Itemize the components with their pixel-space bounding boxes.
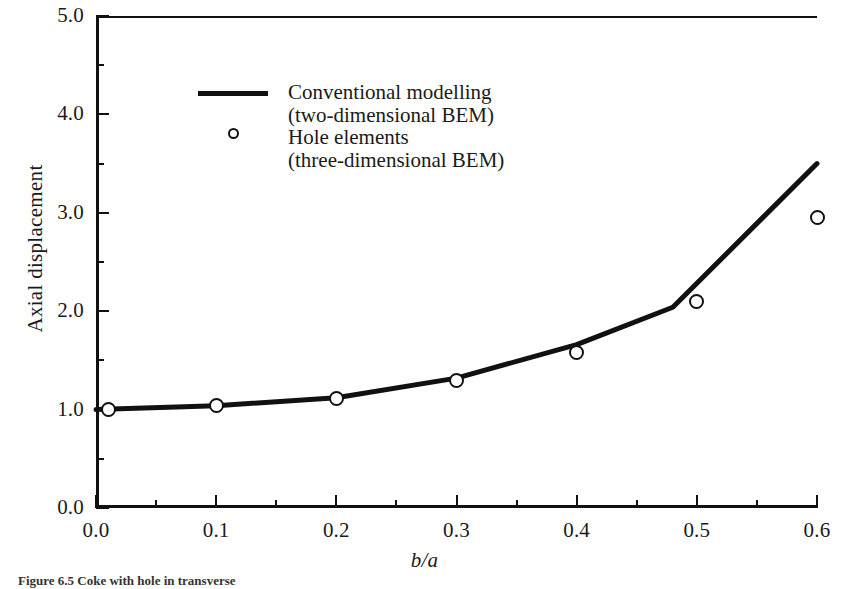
legend-label-conventional-modelling: Conventional modelling xyxy=(288,81,492,104)
x-axis-minor-tick xyxy=(636,500,638,508)
y-axis-tick-label: 1.0 xyxy=(24,399,84,420)
figure-caption: Figure 6.5 Coke with hole in transverse xyxy=(18,573,838,589)
y-axis-major-tick xyxy=(96,507,109,509)
y-axis-minor-tick xyxy=(96,163,104,165)
x-axis-minor-tick xyxy=(155,500,157,508)
x-axis-tick-label: 0.1 xyxy=(181,520,251,541)
x-axis-minor-tick xyxy=(395,500,397,508)
data-point-marker xyxy=(810,210,825,225)
x-axis-tick-label: 0.2 xyxy=(301,520,371,541)
data-point-marker xyxy=(209,398,224,413)
x-axis-major-tick xyxy=(456,495,458,508)
x-axis-tick-label: 0.6 xyxy=(782,520,849,541)
x-axis-tick-label: 0.3 xyxy=(422,520,492,541)
x-axis-tick-label: 0.4 xyxy=(542,520,612,541)
y-axis-minor-tick xyxy=(96,64,104,66)
figure-chart: 0.01.02.03.04.05.0 0.00.10.20.30.40.50.6… xyxy=(0,0,849,589)
x-axis-major-tick xyxy=(576,495,578,508)
y-axis-major-tick xyxy=(96,212,109,214)
solid-line-swatch-icon xyxy=(198,91,268,96)
x-axis-title: b/a xyxy=(0,548,849,573)
y-axis-minor-tick xyxy=(96,359,104,361)
legend-label-two-dimensional-bem: (two-dimensional BEM) xyxy=(288,104,494,127)
data-point-marker xyxy=(101,402,116,417)
y-axis-minor-tick xyxy=(96,458,104,460)
x-axis-major-tick xyxy=(816,495,818,508)
y-axis-title: Axial displacement xyxy=(23,119,48,379)
x-axis-tick-label: 0.5 xyxy=(662,520,732,541)
x-axis-major-tick xyxy=(696,495,698,508)
y-axis-major-tick xyxy=(96,310,109,312)
y-axis-major-tick xyxy=(96,113,109,115)
data-point-marker xyxy=(329,391,344,406)
open-circle-swatch-icon xyxy=(228,128,239,139)
x-axis-minor-tick xyxy=(756,500,758,508)
x-axis-major-tick xyxy=(335,495,337,508)
x-axis-minor-tick xyxy=(516,500,518,508)
x-axis-major-tick xyxy=(215,495,217,508)
data-point-marker xyxy=(449,373,464,388)
legend-label-three-dimensional-bem: (three-dimensional BEM) xyxy=(288,149,504,172)
y-axis-tick-label: 0.0 xyxy=(24,497,84,518)
y-axis-major-tick xyxy=(96,15,109,17)
x-axis-tick-label: 0.0 xyxy=(61,520,131,541)
legend-label-hole-elements: Hole elements xyxy=(288,126,409,149)
y-axis-tick-label: 5.0 xyxy=(24,5,84,26)
x-axis-minor-tick xyxy=(275,500,277,508)
y-axis-minor-tick xyxy=(96,261,104,263)
x-axis-major-tick xyxy=(95,495,97,508)
